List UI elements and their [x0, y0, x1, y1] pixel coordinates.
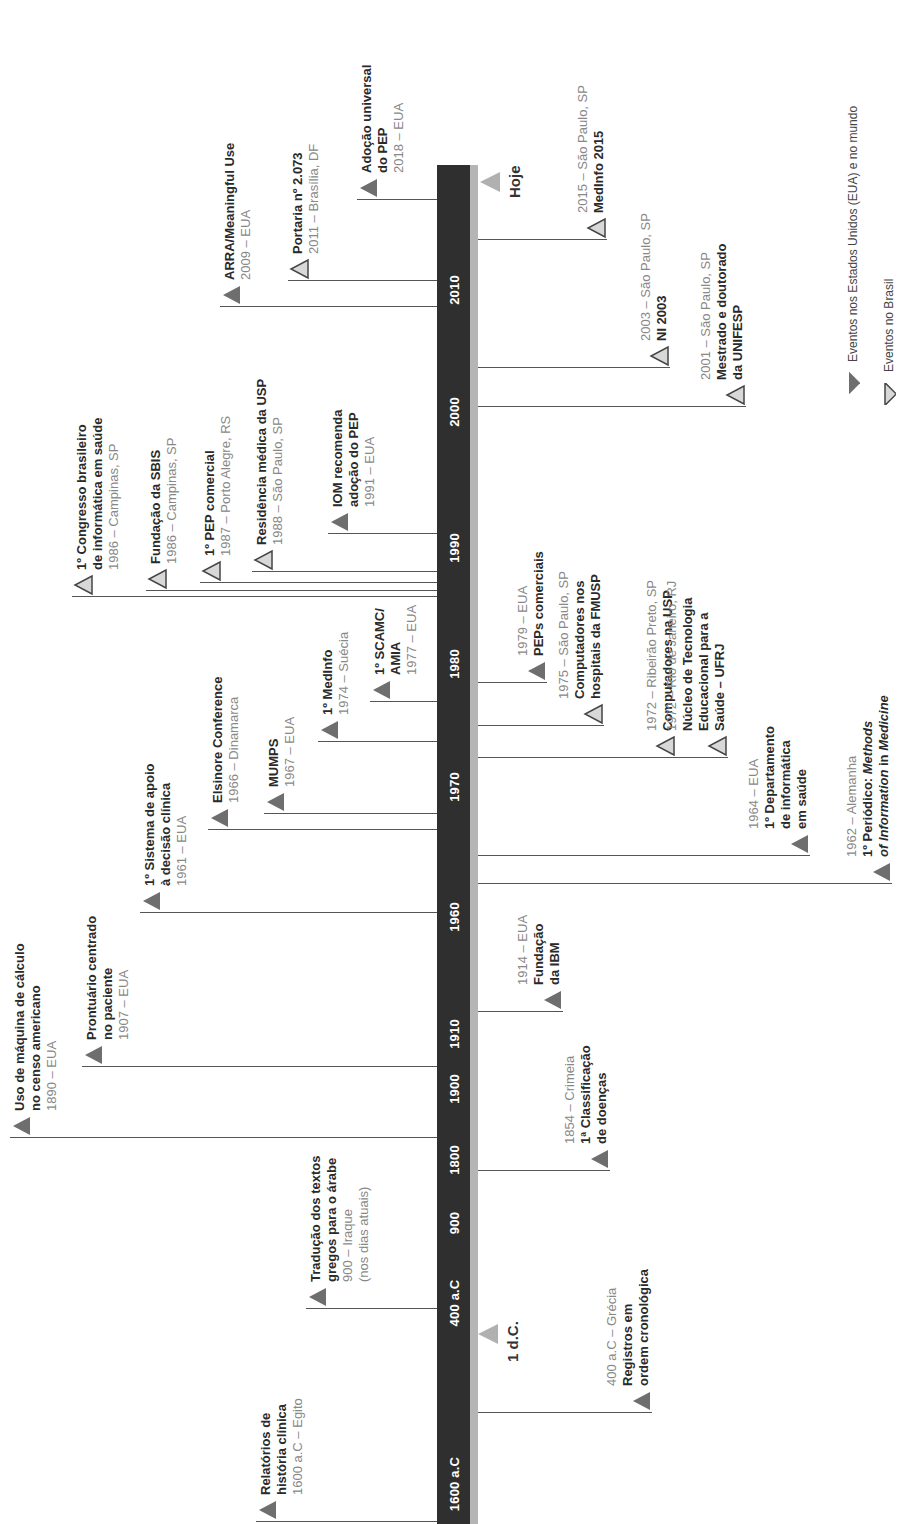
event-title: Fundação da SBIS: [148, 438, 164, 564]
event-label: 1º PEP comercial1987 – Porto Alegre, RS: [202, 416, 234, 556]
event-title: ARRA/Meaningful Use: [222, 143, 238, 280]
filled-triangle-icon: [10, 1115, 32, 1137]
filled-triangle-icon: [220, 284, 242, 306]
event-subtitle: 1988 – São Paulo, SP: [270, 379, 286, 545]
axis-tick-label: 1900: [446, 1074, 461, 1104]
event-title: gregos para o árabe: [324, 1156, 340, 1282]
event-subtitle: 1966 – Dinamarca: [226, 677, 242, 803]
connector-line: [256, 1521, 437, 1522]
event-subtitle: 1890 – EUA: [44, 943, 60, 1111]
event-title: AMIA: [388, 605, 404, 675]
event-title: IOM recomenda: [330, 409, 346, 507]
connector-line: [220, 306, 437, 307]
event-title: Tradução dos textos: [308, 1156, 324, 1282]
event-title: Portaria nº 2.073: [290, 144, 306, 254]
legend-usa-world-label: Eventos nos Estados Unidos (EUA) e no mu…: [846, 106, 860, 362]
event-title: no censo americano: [28, 943, 44, 1111]
event-title: de informática em saúde: [90, 418, 106, 570]
event-label: Uso de máquina de cálculono censo americ…: [12, 943, 60, 1111]
event-title: 1º SCAMC/: [372, 605, 388, 675]
event-title: Uso de máquina de cálculo: [12, 943, 28, 1111]
connector-line: [370, 701, 437, 702]
event-subtitle: 1987 – Porto Alegre, RS: [218, 416, 234, 556]
event-subtitle: 1854 – Crimeia: [562, 1045, 578, 1144]
connector-line: [478, 883, 892, 884]
event-title: Prontuário centrado: [84, 916, 100, 1040]
event-title: Residência médica da USP: [254, 379, 270, 545]
event-subtitle: 1991 – EUA: [362, 409, 378, 507]
event-subtitle: 2009 – EUA: [238, 143, 254, 280]
connector-line: [10, 1137, 437, 1138]
event-subtitle: 1975 – São Paulo, SP: [556, 571, 572, 699]
event-title: Saúde – UFRJ: [712, 581, 728, 731]
event-subtitle: 1962 – Alemanha: [844, 695, 860, 857]
axis-tick-label: 900: [446, 1212, 461, 1234]
event-label: 2015 – São Paulo, SPMedInfo 2015: [575, 85, 607, 213]
event-title: MUMPS: [266, 717, 282, 787]
event-title: 1ª Classificação: [578, 1045, 594, 1144]
filled-triangle-icon: [588, 1148, 610, 1170]
event-label: 2001 – São Paulo, SPMestrado e doutorado…: [698, 243, 746, 380]
event-label: Tradução dos textosgregos para o árabe90…: [308, 1156, 372, 1282]
event-title: Elsinore Conference: [210, 677, 226, 803]
event-subtitle: 1972 – Rio de Janeiro, RJ: [664, 581, 680, 731]
outlined-triangle-icon: [874, 383, 896, 405]
event-title: Mestrado e doutorado: [714, 243, 730, 380]
connector-line: [140, 912, 437, 913]
connector-line: [478, 725, 604, 726]
outlined-triangle-icon: [706, 735, 728, 757]
axis-tick-label: 2010: [446, 275, 461, 305]
event-label: 1º SCAMC/AMIA1977 – EUA: [372, 605, 420, 675]
event-subtitle: 1907 – EUA: [116, 916, 132, 1040]
legend-brazil-label: Eventos no Brasil: [882, 279, 896, 372]
event-subtitle: 1967 – EUA: [282, 717, 298, 787]
outlined-triangle-icon: [72, 574, 94, 596]
axis-tick-label: 1980: [446, 649, 461, 679]
event-subtitle: 1986 – Campinas, SP: [106, 418, 122, 570]
event-subtitle: 1600 a.C – Egito: [290, 1398, 306, 1495]
outlined-triangle-icon: [288, 258, 310, 280]
connector-line: [146, 590, 437, 591]
event-label: 1º MedInfo1974 – Suécia: [320, 632, 352, 715]
event-label: Elsinore Conference1966 – Dinamarca: [210, 677, 242, 803]
filled-triangle-icon: [788, 833, 810, 855]
event-title: Adoção universal: [359, 65, 375, 173]
connector-line: [200, 582, 437, 583]
connector-line: [478, 1170, 610, 1171]
timeline-bar-edge: [470, 165, 478, 1524]
event-label: Residência médica da USP1988 – São Paulo…: [254, 379, 286, 545]
connector-line: [264, 813, 437, 814]
event-title: Computadores nos: [572, 571, 588, 699]
event-title: no paciente: [100, 916, 116, 1040]
event-title: NI 2003: [654, 213, 670, 341]
event-title: hospitais da FMUSP: [588, 571, 604, 699]
event-label: ARRA/Meaningful Use2009 – EUA: [222, 143, 254, 280]
outlined-triangle-icon: [648, 345, 670, 367]
event-label: 400 a.C – GréciaRegistros emordem cronol…: [604, 1269, 652, 1386]
event-subtitle: (nos dias atuais): [356, 1156, 372, 1282]
event-subtitle: 2018 – EUA: [391, 65, 407, 173]
connector-line: [478, 682, 547, 683]
filled-triangle-icon: [630, 1390, 652, 1412]
outlined-triangle-icon: [146, 568, 168, 590]
event-title: MedInfo 2015: [591, 85, 607, 213]
outlined-triangle-icon: [724, 384, 746, 406]
axis-tick-label: 400 a.C: [446, 1280, 461, 1327]
event-subtitle: 1974 – Suécia: [336, 632, 352, 715]
event-label: Prontuário centradono paciente1907 – EUA: [84, 916, 132, 1040]
connector-line: [72, 596, 437, 597]
event-subtitle: 1986 – Campinas, SP: [164, 438, 180, 564]
event-title: 1º MedInfo: [320, 632, 336, 715]
filled-triangle-icon: [870, 861, 892, 883]
connector-line: [328, 533, 437, 534]
event-subtitle: 900 – Iraque: [340, 1156, 356, 1282]
event-subtitle: 2001 – São Paulo, SP: [698, 243, 714, 380]
event-label: IOM recomendaadoção do PEP1991 – EUA: [330, 409, 378, 507]
event-subtitle: 400 a.C – Grécia: [604, 1269, 620, 1386]
connector-line: [306, 1308, 437, 1309]
ad-label: 1 d.C.: [504, 1321, 521, 1362]
event-label: 1964 – EUA1º Departamentode informáticae…: [746, 726, 810, 829]
filled-triangle-icon: [370, 679, 392, 701]
event-title: à decisão clínica: [158, 763, 174, 886]
event-subtitle: 2011 – Brasília, DF: [306, 144, 322, 254]
